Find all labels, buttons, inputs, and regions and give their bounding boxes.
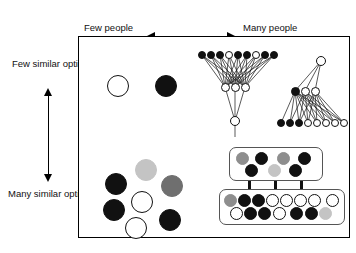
- node-circle: [305, 207, 318, 220]
- node-circle: [225, 51, 233, 59]
- node-circle: [234, 51, 242, 59]
- y-axis-bottom-label: Many similar options: [8, 188, 88, 200]
- node-circle: [224, 194, 237, 207]
- node-circle: [244, 207, 257, 220]
- node-circle: [131, 191, 153, 213]
- lower-pool-box: [219, 189, 345, 225]
- node-circle: [255, 152, 268, 165]
- node-circle: [273, 207, 286, 220]
- node-circle: [243, 51, 251, 59]
- node-circle: [125, 217, 147, 239]
- node-circle: [289, 164, 302, 177]
- node-circle: [295, 119, 303, 127]
- x-axis-right-label: Many people: [243, 22, 297, 34]
- vertical-double-arrow-icon: [44, 88, 53, 182]
- node-circle: [280, 194, 293, 207]
- node-circle: [230, 207, 243, 220]
- node-circle: [155, 75, 177, 97]
- quadrant-few-people-many-options: [97, 155, 207, 235]
- node-circle: [231, 83, 240, 92]
- node-circle: [230, 116, 240, 126]
- node-circle: [216, 51, 224, 59]
- node-circle: [103, 199, 125, 221]
- node-circle: [261, 51, 269, 59]
- node-circle: [294, 194, 307, 207]
- node-circle: [277, 152, 290, 165]
- quadrant-few-people-few-options: [101, 63, 191, 113]
- node-circle: [331, 119, 339, 127]
- node-circle: [105, 173, 127, 195]
- x-axis-left-label: Few people: [84, 22, 133, 34]
- node-circle: [207, 51, 215, 59]
- structure-funnel: [197, 45, 287, 145]
- node-circle: [221, 83, 230, 92]
- upper-pool-box: [229, 147, 323, 181]
- node-circle: [311, 87, 320, 96]
- node-circle: [161, 175, 183, 197]
- arrow-shaft: [48, 95, 50, 175]
- node-circle: [304, 119, 312, 127]
- node-circle: [159, 209, 181, 231]
- funnel-edges: [197, 45, 287, 145]
- node-circle: [268, 164, 281, 177]
- structure-inverted-tree: [277, 51, 349, 141]
- arrow-head-down-icon: [44, 174, 52, 182]
- node-circle: [238, 194, 251, 207]
- node-circle: [313, 119, 321, 127]
- node-circle: [277, 119, 285, 127]
- node-circle: [322, 119, 330, 127]
- diagram-frame: [78, 36, 350, 238]
- node-circle: [236, 152, 249, 165]
- node-circle: [135, 159, 157, 181]
- node-circle: [241, 83, 250, 92]
- node-circle: [286, 119, 294, 127]
- horizontal-axis: Few people Many people: [0, 10, 356, 30]
- node-circle: [340, 119, 348, 127]
- node-circle: [316, 56, 326, 66]
- node-circle: [258, 207, 271, 220]
- node-circle: [301, 87, 310, 96]
- diagram-canvas: Few people Many people Few similar optio…: [0, 0, 356, 253]
- node-circle: [107, 75, 129, 97]
- node-circle: [198, 51, 206, 59]
- node-circle: [319, 207, 332, 220]
- node-circle: [298, 152, 311, 165]
- y-axis-top-label: Few similar options: [12, 58, 84, 70]
- node-circle: [308, 194, 321, 207]
- node-circle: [326, 194, 339, 207]
- node-circle: [252, 194, 265, 207]
- node-circle: [245, 164, 258, 177]
- node-circle: [290, 207, 303, 220]
- node-circle: [266, 194, 279, 207]
- node-circle: [291, 87, 300, 96]
- node-circle: [252, 51, 260, 59]
